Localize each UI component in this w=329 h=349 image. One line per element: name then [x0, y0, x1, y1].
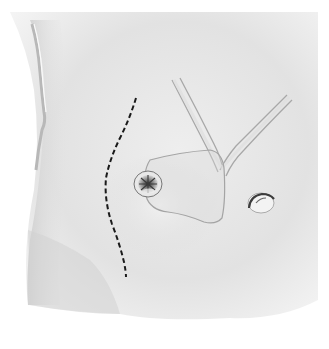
- stoma: [134, 171, 162, 197]
- small-opening: [248, 193, 274, 213]
- surgical-illustration: [0, 0, 329, 349]
- figure-canvas: [0, 0, 329, 349]
